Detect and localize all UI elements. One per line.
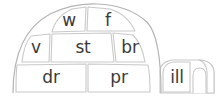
block-v-label: v [31, 37, 41, 57]
dome-row-1: w f [52, 7, 135, 32]
block-br-label: br [121, 37, 139, 57]
igloo-word-blocks-figure: ill w f v st [0, 0, 219, 103]
block-pr[interactable]: pr [88, 64, 150, 92]
block-ill[interactable]: ill [163, 62, 190, 92]
block-st[interactable]: st [51, 33, 114, 62]
block-dr-label: dr [42, 67, 60, 87]
block-ill-label: ill [170, 67, 184, 87]
dome-row-2: v st br [22, 33, 145, 62]
dome-row-3: dr pr [16, 64, 150, 92]
block-dr[interactable]: dr [16, 64, 86, 92]
block-br[interactable]: br [113, 33, 145, 62]
igloo-illustration: ill w f v st [0, 0, 219, 103]
block-v[interactable]: v [22, 34, 50, 62]
block-pr-label: pr [110, 67, 128, 87]
arch-icon [193, 68, 206, 93]
block-w-label: w [62, 10, 76, 30]
block-st-label: st [75, 37, 91, 57]
